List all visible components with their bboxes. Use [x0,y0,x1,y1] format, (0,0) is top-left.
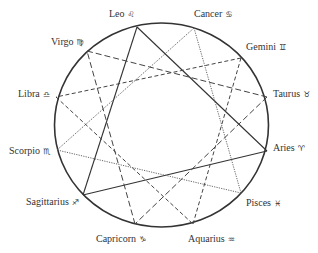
sign-name: Virgo [51,36,74,47]
sign-name: Scorpio [9,145,40,156]
pisces-glyph-icon: ♓ [274,199,281,208]
sign-label-capricorn: Capricorn♑ [96,233,146,246]
sign-name: Gemini [246,41,276,52]
sign-label-cancer: Cancer♋ [194,8,233,21]
zodiac-diagram [0,0,318,253]
sign-name: Aries [273,142,295,153]
capricorn-glyph-icon: ♑ [139,235,146,244]
sagittarius-glyph-icon: ♐ [72,198,79,207]
earth-triangle-edge-capricorn-virgo [87,51,135,224]
sign-name: Cancer [194,8,222,19]
sign-name: Taurus [273,88,300,99]
sign-label-taurus: Taurus♉ [273,88,310,101]
sign-label-scorpio: Scorpio♏ [9,145,50,158]
sign-name: Sagittarius [26,196,69,207]
sign-name: Capricorn [96,233,136,244]
air-triangle-edge-gemini-libra [56,58,241,97]
air-triangle-edge-aquarius-gemini [193,58,241,224]
virgo-glyph-icon: ♍ [77,38,84,47]
sign-name: Libra [18,88,40,99]
sign-label-pisces: Pisces♓ [246,197,281,210]
sign-label-aries: Aries♈ [273,142,305,155]
sign-label-sagittarius: Sagittarius♐ [26,196,79,209]
taurus-glyph-icon: ♉ [303,90,310,99]
sign-name: Pisces [246,197,271,208]
leo-glyph-icon: ♌ [128,10,135,19]
aquarius-glyph-icon: ♒ [228,235,235,244]
scorpio-glyph-icon: ♏ [43,147,50,156]
triangles-group [56,27,267,224]
sign-name: Leo [109,8,125,19]
sign-label-virgo: Virgo♍ [51,36,84,49]
cancer-glyph-icon: ♋ [225,10,232,19]
sign-label-libra: Libra♎ [18,88,50,101]
aries-glyph-icon: ♈ [298,144,305,153]
sign-label-gemini: Gemini♊ [246,41,286,54]
sign-label-aquarius: Aquarius♒ [188,233,235,246]
water-triangle-edge-pisces-scorpio [57,150,241,193]
sign-label-leo: Leo♌ [109,8,135,21]
libra-glyph-icon: ♎ [43,90,50,99]
gemini-glyph-icon: ♊ [279,43,286,52]
water-triangle-edge-cancer-pisces [194,28,241,193]
sign-name: Aquarius [188,233,225,244]
